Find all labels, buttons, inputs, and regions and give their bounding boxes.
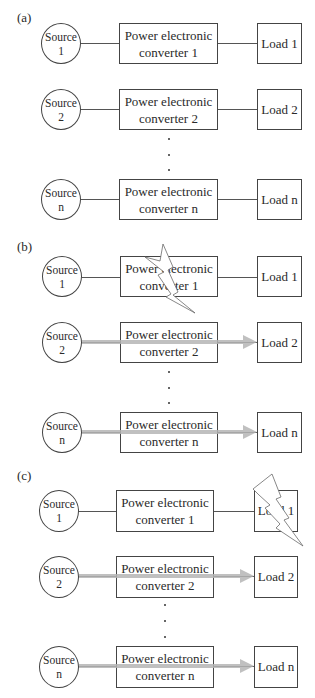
converter-label: Power electronic — [125, 27, 213, 44]
ellipsis-dot — [164, 636, 166, 638]
converter-2: Power electronic converter 2 — [119, 89, 218, 130]
converter-label: Power electronic — [125, 260, 213, 277]
load-1: Load 1 — [257, 23, 302, 64]
wire — [217, 109, 257, 110]
converter-1: Power electronic converter 1 — [116, 490, 214, 532]
load-label: Load n — [261, 425, 297, 441]
converter-number: converter 1 — [140, 277, 199, 294]
converter-number: converter n — [140, 433, 199, 450]
source-number: 1 — [56, 511, 62, 525]
wire — [81, 277, 121, 278]
ellipsis-dot — [168, 138, 170, 140]
source-number: 2 — [56, 577, 62, 591]
load-label: Load 2 — [261, 102, 297, 118]
source-label: Source — [45, 30, 77, 44]
source-n: Source n — [42, 412, 82, 453]
converter-1-faulted: Power electronic converter 1 — [120, 256, 218, 297]
converter-label: Power electronic — [121, 650, 209, 667]
converter-n: Power electronic converter n — [119, 179, 218, 220]
source-label: Source — [45, 186, 77, 200]
converter-label: Power electronic — [121, 560, 209, 577]
load-label: Load 2 — [258, 569, 294, 585]
source-label: Source — [46, 419, 78, 433]
load-label: Load 1 — [261, 36, 297, 52]
wire — [80, 199, 120, 200]
load-label: Load 1 — [261, 269, 297, 285]
load-label: Load n — [258, 659, 294, 675]
source-number: 2 — [59, 343, 65, 357]
wire — [217, 43, 257, 44]
source-1: Source 1 — [39, 490, 79, 532]
source-n: Source n — [41, 179, 81, 220]
converter-label: Power electronic — [125, 183, 213, 200]
load-2: Load 2 — [254, 556, 298, 598]
ellipsis-dot — [168, 387, 170, 389]
ellipsis-dot — [168, 154, 170, 156]
converter-number: converter 1 — [136, 511, 195, 528]
converter-number: converter n — [139, 200, 198, 217]
source-number: n — [56, 667, 62, 681]
source-2: Source 2 — [42, 322, 82, 363]
load-1: Load 1 — [257, 256, 302, 297]
source-label: Source — [45, 96, 77, 110]
converter-number: converter n — [136, 667, 195, 684]
ellipsis-dot — [164, 604, 166, 606]
converter-2: Power electronic converter 2 — [120, 322, 218, 363]
wire — [213, 511, 254, 512]
load-n: Load n — [254, 646, 298, 688]
converter-label: Power electronic — [125, 326, 213, 343]
source-n: Source n — [39, 646, 79, 688]
source-1: Source 1 — [42, 256, 82, 297]
wire — [81, 432, 121, 433]
converter-n: Power electronic converter n — [120, 412, 218, 453]
source-number: 1 — [58, 44, 64, 58]
load-label: Load n — [261, 192, 297, 208]
source-number: 2 — [58, 110, 64, 124]
wire — [80, 43, 120, 44]
wire — [81, 342, 121, 343]
source-label: Source — [46, 329, 78, 343]
ellipsis-dot — [168, 371, 170, 373]
load-n: Load n — [257, 179, 302, 220]
load-label: Load 1 — [258, 503, 294, 519]
load-n: Load n — [257, 412, 302, 453]
ellipsis-dot — [168, 169, 170, 171]
ellipsis-dot — [168, 402, 170, 404]
load-2: Load 2 — [257, 89, 302, 130]
wire — [217, 342, 257, 343]
converter-label: Power electronic — [125, 416, 213, 433]
converter-n: Power electronic converter n — [116, 646, 214, 688]
source-number: n — [59, 433, 65, 447]
source-2: Source 2 — [41, 89, 81, 130]
wire — [213, 576, 254, 577]
converter-number: converter 2 — [136, 577, 195, 594]
converter-number: converter 2 — [140, 343, 199, 360]
source-number: 1 — [59, 277, 65, 291]
source-number: n — [58, 200, 64, 214]
load-label: Load 2 — [261, 335, 297, 351]
load-2: Load 2 — [257, 322, 302, 363]
panel-label: (b) — [17, 239, 32, 255]
wire — [78, 666, 117, 667]
converter-2: Power electronic converter 2 — [116, 556, 214, 598]
converter-label: Power electronic — [121, 494, 209, 511]
panel-label: (a) — [17, 10, 31, 26]
source-label: Source — [43, 497, 75, 511]
ellipsis-dot — [164, 620, 166, 622]
wire — [213, 666, 254, 667]
source-2: Source 2 — [39, 556, 79, 598]
converter-number: converter 1 — [139, 44, 198, 61]
wire — [217, 199, 257, 200]
wire — [78, 576, 117, 577]
converter-number: converter 2 — [139, 110, 198, 127]
wire — [78, 511, 117, 512]
source-label: Source — [43, 653, 75, 667]
converter-label: Power electronic — [125, 93, 213, 110]
load-1-faulted: Load 1 — [254, 490, 298, 532]
converter-1: Power electronic converter 1 — [119, 23, 218, 64]
wire — [80, 109, 120, 110]
wire — [217, 277, 257, 278]
panel-label: (c) — [17, 468, 31, 484]
source-1: Source 1 — [41, 23, 81, 64]
source-label: Source — [46, 263, 78, 277]
